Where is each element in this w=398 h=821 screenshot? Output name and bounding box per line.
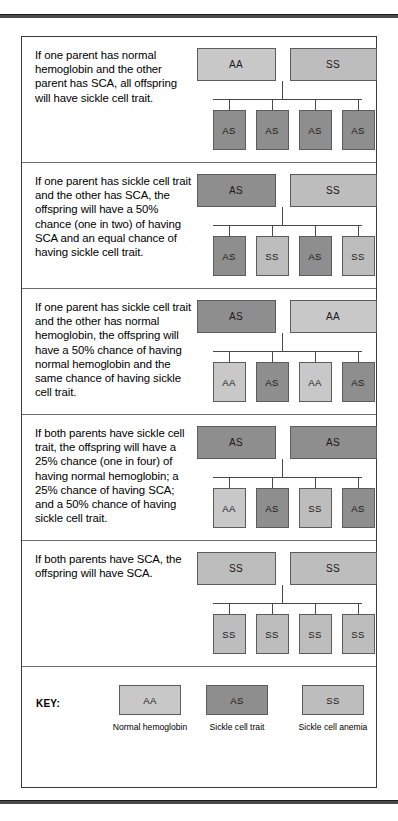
child-connector-line — [229, 477, 230, 488]
parent-genotype-box: AS — [197, 426, 276, 459]
offspring-genotype-box: AA — [213, 488, 246, 528]
key-item: ASSickle cell trait — [190, 685, 284, 732]
offspring-generation: ASSSASSS — [197, 236, 377, 276]
scenario-content: If one parent has sickle cell trait and … — [22, 163, 376, 288]
child-connector-line — [315, 477, 316, 488]
child-connector-line — [229, 99, 230, 110]
parent-connector-line — [282, 333, 283, 351]
pedigree-diagram: ASSSASSSASSS — [197, 174, 376, 278]
parent-generation: ASSS — [197, 174, 377, 207]
parent-genotype-box: SS — [197, 552, 276, 585]
scenario-row: If one parent has sickle cell trait and … — [22, 288, 376, 414]
child-connector-line — [315, 351, 316, 362]
offspring-genotype-box: AS — [299, 110, 332, 150]
child-connector-line — [229, 351, 230, 362]
parent-connector-line — [282, 585, 283, 603]
child-connector-line — [358, 225, 359, 236]
child-connector-line — [358, 477, 359, 488]
parent-genotype-box: AS — [290, 426, 377, 459]
scenario-list: If one parent has normal hemoglobin and … — [22, 37, 376, 666]
parent-genotype-box: SS — [290, 552, 377, 585]
sibling-bus-line — [213, 477, 362, 478]
offspring-genotype-box: AA — [213, 362, 246, 402]
parent-connector-line — [282, 207, 283, 225]
parent-genotype-box: AS — [197, 174, 276, 207]
scenario-content: If one parent has normal hemoglobin and … — [22, 37, 376, 162]
scenario-content: If both parents have sickle cell trait, … — [22, 415, 376, 540]
offspring-genotype-box: AS — [256, 110, 289, 150]
parent-genotype-box: AA — [197, 48, 276, 81]
scenario-row: If one parent has normal hemoglobin and … — [22, 37, 376, 162]
offspring-genotype-box: AS — [213, 110, 246, 150]
key-label: KEY: — [36, 698, 60, 709]
offspring-genotype-box: AS — [342, 110, 375, 150]
child-connector-line — [272, 99, 273, 110]
offspring-genotype-box: SS — [256, 236, 289, 276]
key-swatch: AA — [119, 685, 181, 715]
key-item: SSSickle cell anemia — [280, 685, 386, 732]
page-rule-bottom — [0, 800, 398, 804]
offspring-genotype-box: SS — [256, 614, 289, 654]
child-connector-line — [358, 351, 359, 362]
offspring-genotype-box: SS — [213, 614, 246, 654]
scenario-row: If both parents have sickle cell trait, … — [22, 414, 376, 540]
offspring-genotype-box: AA — [299, 362, 332, 402]
sibling-bus-line — [213, 603, 362, 604]
key-swatch: SS — [302, 685, 364, 715]
pedigree-diagram: ASASAAASSSAS — [197, 426, 376, 530]
offspring-genotype-box: SS — [299, 488, 332, 528]
inheritance-figure: If one parent has normal hemoglobin and … — [21, 36, 377, 788]
offspring-generation: SSSSSSSS — [197, 614, 377, 654]
offspring-genotype-box: SS — [342, 614, 375, 654]
pedigree-diagram: SSSSSSSSSSSS — [197, 552, 376, 656]
offspring-generation: AAASSSAS — [197, 488, 377, 528]
scenario-row: If one parent has sickle cell trait and … — [22, 162, 376, 288]
sibling-bus-line — [213, 99, 362, 100]
offspring-generation: ASASASAS — [197, 110, 377, 150]
child-connector-line — [272, 351, 273, 362]
key-caption: Sickle cell trait — [190, 722, 284, 732]
child-connector-line — [272, 603, 273, 614]
offspring-genotype-box: AS — [256, 488, 289, 528]
page-rule-top — [0, 14, 398, 18]
child-connector-line — [358, 99, 359, 110]
offspring-genotype-box: AS — [213, 236, 246, 276]
pedigree-diagram: ASAAAAASAAAS — [197, 300, 376, 404]
key-caption: Sickle cell anemia — [280, 722, 386, 732]
parent-generation: AASS — [197, 48, 377, 81]
offspring-generation: AAASAAAS — [197, 362, 377, 402]
key-swatch: AS — [206, 685, 268, 715]
parent-genotype-box: AA — [290, 300, 377, 333]
parent-genotype-box: SS — [290, 174, 377, 207]
child-connector-line — [229, 225, 230, 236]
offspring-genotype-box: AS — [342, 362, 375, 402]
parent-connector-line — [282, 459, 283, 477]
parent-generation: ASAS — [197, 426, 377, 459]
scenario-description: If one parent has normal hemoglobin and … — [22, 48, 198, 105]
child-connector-line — [272, 477, 273, 488]
scenario-description: If both parents have SCA, the offspring … — [22, 552, 198, 580]
scenario-row: If both parents have SCA, the offspring … — [22, 540, 376, 666]
key-caption: Normal hemoglobin — [96, 722, 204, 732]
child-connector-line — [315, 603, 316, 614]
parent-connector-line — [282, 81, 283, 99]
offspring-genotype-box: SS — [299, 614, 332, 654]
scenario-content: If both parents have SCA, the offspring … — [22, 541, 376, 666]
offspring-genotype-box: AS — [299, 236, 332, 276]
child-connector-line — [315, 225, 316, 236]
child-connector-line — [229, 603, 230, 614]
key-item: AANormal hemoglobin — [96, 685, 204, 732]
pedigree-diagram: AASSASASASAS — [197, 48, 376, 152]
scenario-description: If one parent has sickle cell trait and … — [22, 174, 198, 259]
offspring-genotype-box: SS — [342, 236, 375, 276]
parent-generation: SSSS — [197, 552, 377, 585]
scenario-description: If both parents have sickle cell trait, … — [22, 426, 198, 525]
parent-genotype-box: SS — [290, 48, 377, 81]
child-connector-line — [315, 99, 316, 110]
sibling-bus-line — [213, 225, 362, 226]
key-legend: KEY: AANormal hemoglobinASSickle cell tr… — [22, 666, 376, 751]
scenario-content: If one parent has sickle cell trait and … — [22, 289, 376, 414]
parent-generation: ASAA — [197, 300, 377, 333]
offspring-genotype-box: AS — [256, 362, 289, 402]
child-connector-line — [272, 225, 273, 236]
